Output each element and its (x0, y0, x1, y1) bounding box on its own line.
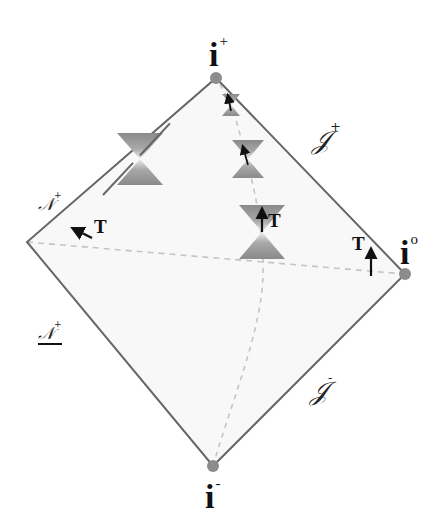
label-i-minus: i- (205, 480, 220, 514)
penrose-diagram (0, 0, 442, 529)
label-i-plus-sup: + (219, 33, 227, 49)
label-scri-plus: 𝒥+ (312, 127, 341, 153)
label-t-left: T (94, 217, 107, 236)
label-scri-minus-base: 𝒥 (310, 376, 328, 406)
label-i-plus-base: i (209, 36, 218, 73)
label-scri-plus-base: 𝒥 (312, 125, 330, 155)
label-scri-plus-sup: + (330, 119, 341, 134)
vertex-i-plus (210, 72, 222, 84)
spacetime-region (27, 78, 405, 466)
label-i-minus-sup: - (215, 475, 220, 491)
label-scri-minus-sup: - (328, 370, 332, 385)
label-i-plus: i+ (209, 38, 228, 72)
label-i-zero-base: i (400, 234, 409, 271)
label-i-zero-sup: o (410, 231, 418, 247)
label-n-upper-sup: + (54, 190, 62, 200)
label-i-minus-base: i (205, 478, 214, 515)
label-scri-minus: 𝒥- (310, 378, 332, 404)
vertex-i-minus (207, 460, 219, 472)
label-t-center: T (268, 211, 281, 230)
label-n-lower-sup: + (54, 319, 62, 329)
label-n-upper: 𝒩+ (38, 196, 62, 213)
label-n-upper-base: 𝒩 (38, 194, 54, 214)
label-i-zero: io (400, 236, 418, 270)
label-t-right: T (352, 234, 365, 253)
label-n-lower-base: 𝒩 (38, 323, 54, 343)
label-n-lower: 𝒩+ (38, 325, 62, 345)
